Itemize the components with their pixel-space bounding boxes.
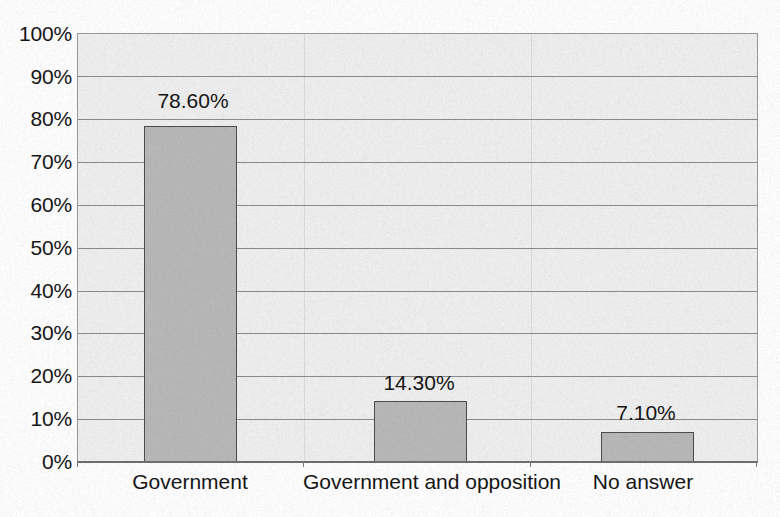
y-axis-label-90: 90%	[2, 66, 72, 87]
bar-value-no-answer: 7.10%	[573, 402, 719, 423]
x-axis-tick	[530, 461, 531, 467]
y-axis-label-20: 20%	[2, 365, 72, 386]
bar-government[interactable]	[144, 126, 237, 462]
x-axis-tick	[77, 461, 78, 467]
y-axis-label-60: 60%	[2, 194, 72, 215]
x-axis-category-government: Government	[77, 470, 303, 494]
x-axis-category-government-and-opposition: Government and opposition	[303, 470, 530, 494]
y-axis-label-50: 50%	[2, 237, 72, 258]
x-axis-category-no-answer: No answer	[530, 470, 756, 494]
y-axis-label-70: 70%	[2, 151, 72, 172]
bar-value-government: 78.60%	[120, 90, 266, 111]
y-axis-label-0: 0%	[2, 451, 72, 472]
bar-chart: 100% 90% 80% 70% 60% 50% 40% 30% 20% 10%…	[0, 0, 780, 517]
bar-value-government-and-opposition: 14.30%	[346, 372, 492, 393]
x-axis-tick	[756, 461, 757, 467]
y-axis-label-40: 40%	[2, 280, 72, 301]
bar-no-answer[interactable]	[601, 432, 694, 462]
gridline-80	[78, 119, 757, 120]
gridline-90	[78, 76, 757, 77]
y-axis-label-100: 100%	[2, 23, 72, 44]
x-axis-tick	[303, 461, 304, 467]
y-axis-label-80: 80%	[2, 108, 72, 129]
bar-government-and-opposition[interactable]	[374, 401, 467, 462]
x-axis-line	[77, 461, 758, 463]
y-axis-label-30: 30%	[2, 322, 72, 343]
y-axis-label-10: 10%	[2, 408, 72, 429]
